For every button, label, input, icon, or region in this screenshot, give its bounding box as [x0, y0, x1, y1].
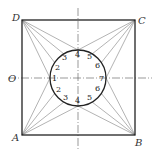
- label-o: O: [8, 73, 16, 84]
- diagram-canvas: D C A B O 3 2 4 5 6 1 7 2 3 4 6 5: [0, 0, 161, 159]
- num-5-upper: 5: [87, 52, 92, 61]
- num-5-lower: 5: [87, 93, 92, 102]
- num-4-top: 4: [75, 50, 80, 59]
- num-3-upper: 3: [62, 53, 67, 62]
- num-6-lower: 6: [95, 84, 100, 93]
- num-4-bottom: 4: [75, 96, 80, 105]
- num-2-lower: 2: [56, 85, 61, 94]
- num-7: 7: [99, 74, 104, 83]
- label-b: B: [134, 137, 142, 148]
- construction-figure: D C A B O 3 2 4 5 6 1 7 2 3 4 6 5: [0, 0, 161, 159]
- num-6-upper: 6: [95, 61, 100, 70]
- label-c: C: [138, 15, 146, 26]
- num-3-lower: 3: [63, 93, 68, 102]
- label-d: D: [11, 12, 20, 23]
- num-1: 1: [52, 74, 57, 83]
- num-2-upper: 2: [55, 63, 60, 72]
- label-a: A: [11, 132, 19, 143]
- outer-square: [22, 20, 135, 135]
- construction-rays: [22, 20, 135, 135]
